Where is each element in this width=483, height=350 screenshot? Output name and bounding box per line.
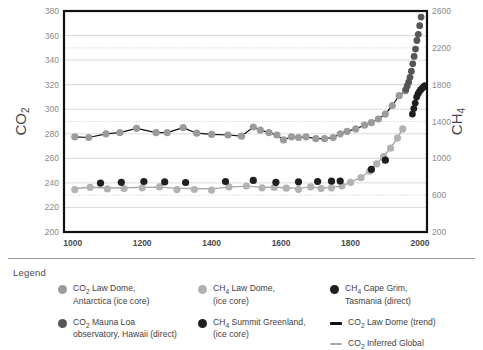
datapoint-series-2 bbox=[373, 160, 380, 167]
ytick-label-right: 2600 bbox=[432, 6, 451, 16]
datapoint-series-0 bbox=[352, 125, 359, 132]
chart-container: 2002202402602803003203403603802006001000… bbox=[0, 0, 483, 255]
legend-co2-law-dome[interactable]: CO2 Law Dome,Antarctica (ice core) bbox=[58, 283, 198, 308]
datapoint-series-0 bbox=[396, 92, 403, 99]
datapoint-series-1 bbox=[415, 31, 422, 38]
ytick-label-left: 360 bbox=[45, 31, 59, 41]
datapoint-series-2 bbox=[387, 145, 394, 152]
datapoint-series-0 bbox=[361, 122, 368, 129]
ytick-label-left: 260 bbox=[45, 153, 59, 163]
legend-entry-label: CH4 Law Dome,(ice core) bbox=[213, 283, 275, 308]
datapoint-series-0 bbox=[250, 123, 257, 130]
legend-divider bbox=[8, 258, 475, 259]
legend-dot-icon bbox=[58, 285, 67, 294]
legend-column-1: CO2 Law Dome,Antarctica (ice core)CO2 Ma… bbox=[58, 283, 198, 350]
datapoint-series-2 bbox=[258, 184, 265, 191]
legend-dot-icon bbox=[330, 285, 339, 294]
datapoint-series-3 bbox=[337, 177, 344, 184]
datapoint-series-2 bbox=[347, 179, 354, 186]
datapoint-series-2 bbox=[399, 125, 406, 132]
ytick-label-left: 200 bbox=[45, 227, 59, 237]
datapoint-series-1 bbox=[414, 37, 421, 44]
legend-line-icon bbox=[330, 343, 342, 345]
datapoint-series-3 bbox=[97, 180, 104, 187]
datapoint-series-2 bbox=[243, 182, 250, 189]
xtick-label: 2000 bbox=[411, 238, 430, 248]
datapoint-series-0 bbox=[368, 119, 375, 126]
datapoint-series-0 bbox=[330, 134, 337, 141]
datapoint-series-1 bbox=[418, 14, 425, 21]
datapoint-series-0 bbox=[382, 111, 389, 118]
datapoint-series-0 bbox=[153, 129, 160, 136]
datapoint-series-1 bbox=[419, 3, 426, 10]
datapoint-series-0 bbox=[224, 131, 231, 138]
datapoint-series-3 bbox=[250, 177, 257, 184]
datapoint-series-3 bbox=[368, 166, 375, 173]
datapoint-series-2 bbox=[121, 185, 128, 192]
legend-entry-label: CH4 Summit Greenland,(ice core) bbox=[213, 317, 306, 342]
datapoint-series-2 bbox=[328, 184, 335, 191]
ytick-label-left: 220 bbox=[45, 202, 59, 212]
datapoint-series-0 bbox=[116, 129, 123, 136]
datapoint-series-3 bbox=[161, 178, 168, 185]
datapoint-series-3 bbox=[140, 178, 147, 185]
legend-ch4-cape-grim[interactable]: CH4 Cape Grim,Tasmania (direct) bbox=[330, 283, 478, 308]
legend-column-3: CH4 Cape Grim,Tasmania (direct)CO2 Law D… bbox=[330, 283, 478, 350]
datapoint-series-2 bbox=[394, 135, 401, 142]
datapoint-series-2 bbox=[208, 187, 215, 194]
datapoint-series-2 bbox=[139, 184, 146, 191]
datapoint-series-0 bbox=[85, 134, 92, 141]
svg-text:CO2: CO2 bbox=[12, 107, 31, 136]
legend-ch4-summit-greenland[interactable]: CH4 Summit Greenland,(ice core) bbox=[198, 317, 330, 342]
legend-co2-law-dome-trend[interactable]: CO2 Law Dome (trend) bbox=[330, 317, 478, 330]
legend-dot-icon bbox=[58, 319, 67, 328]
datapoint-series-0 bbox=[303, 133, 310, 140]
ytick-label-left: 340 bbox=[45, 55, 59, 65]
ytick-label-left: 380 bbox=[45, 6, 59, 16]
plot-series-group bbox=[71, 0, 428, 194]
datapoint-series-0 bbox=[238, 133, 245, 140]
datapoint-series-2 bbox=[318, 185, 325, 192]
datapoint-series-1 bbox=[412, 46, 419, 53]
legend-panel: Legend CO2 Law Dome,Antarctica (ice core… bbox=[0, 255, 483, 350]
datapoint-series-3 bbox=[382, 157, 389, 164]
datapoint-series-0 bbox=[389, 102, 396, 109]
legend-ch4-law-dome[interactable]: CH4 Law Dome,(ice core) bbox=[198, 283, 330, 308]
ytick-label-left: 280 bbox=[45, 129, 59, 139]
legend-entry-label: CO2 Law Dome,Antarctica (ice core) bbox=[73, 283, 149, 308]
legend-dot-icon bbox=[198, 285, 207, 294]
datapoint-series-2 bbox=[295, 186, 302, 193]
datapoint-series-1 bbox=[407, 74, 414, 81]
legend-entry-label: CH4 Cape Grim,Tasmania (direct) bbox=[345, 283, 411, 308]
datapoint-series-4 bbox=[412, 100, 419, 107]
legend-dot-icon bbox=[198, 319, 207, 328]
datapoint-series-3 bbox=[182, 179, 189, 186]
datapoint-series-3 bbox=[314, 178, 321, 185]
legend-entry-label: CO2 Mauna Loaobservatory, Hawaii (direct… bbox=[73, 317, 177, 342]
datapoint-series-3 bbox=[272, 179, 279, 186]
datapoint-series-0 bbox=[102, 130, 109, 137]
emissions-chart: 2002202402602803003203403603802006001000… bbox=[0, 0, 483, 255]
legend-co2-inferred-global[interactable]: CO2 Inferred Global bbox=[330, 338, 478, 350]
datapoint-series-3 bbox=[222, 178, 229, 185]
datapoint-series-2 bbox=[87, 184, 94, 191]
legend-entry-label: CO2 Law Dome (trend) bbox=[348, 317, 436, 330]
datapoint-series-2 bbox=[104, 185, 111, 192]
datapoint-series-0 bbox=[344, 128, 351, 135]
datapoint-series-2 bbox=[173, 186, 180, 193]
ytick-label-right: 2200 bbox=[432, 43, 451, 53]
legend-line-icon bbox=[330, 322, 342, 325]
datapoint-series-1 bbox=[416, 22, 423, 29]
datapoint-series-3 bbox=[328, 178, 335, 185]
datapoint-series-3 bbox=[295, 178, 302, 185]
datapoint-series-2 bbox=[283, 185, 290, 192]
legend-column-2: CH4 Law Dome,(ice core)CH4 Summit Greenl… bbox=[198, 283, 330, 350]
y-axis-title-co2: CO2 bbox=[12, 107, 31, 136]
datapoint-series-0 bbox=[265, 129, 272, 136]
datapoint-series-2 bbox=[307, 183, 314, 190]
y-axis-title-ch4: CH4 bbox=[448, 107, 467, 135]
datapoint-series-0 bbox=[257, 127, 264, 134]
legend-co2-mauna-loa[interactable]: CO2 Mauna Loaobservatory, Hawaii (direct… bbox=[58, 317, 198, 342]
datapoint-series-3 bbox=[118, 179, 125, 186]
legend-columns: CO2 Law Dome,Antarctica (ice core)CO2 Ma… bbox=[58, 283, 478, 350]
